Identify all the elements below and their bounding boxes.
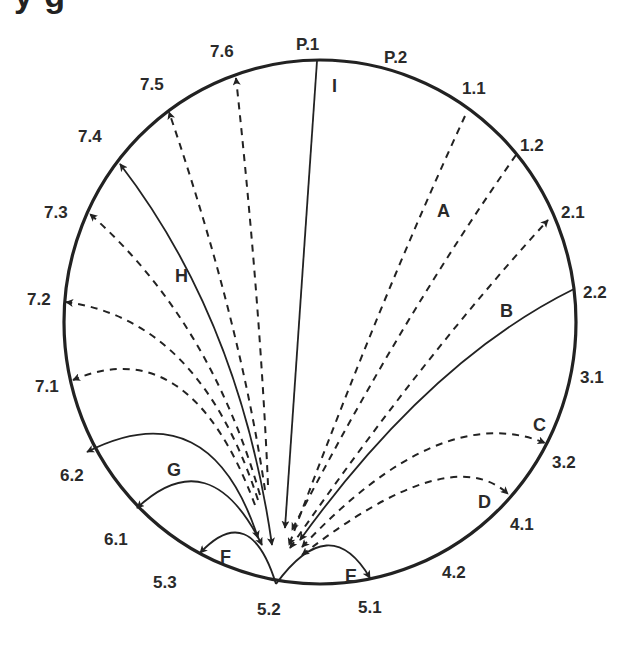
edge-A-1-2 (292, 155, 516, 530)
node-label-7-1: 7.1 (35, 377, 59, 396)
node-label-1-2: 1.2 (520, 136, 544, 155)
path-label-D: D (478, 492, 491, 512)
node-label-2-2: 2.2 (583, 283, 607, 302)
edge-H-7-2 (66, 302, 258, 500)
node-label-2-1: 2.1 (561, 203, 585, 222)
path-label-F: F (220, 547, 231, 567)
edge-H-7-5 (169, 112, 265, 490)
node-label-7-6: 7.6 (210, 42, 234, 61)
node-label-p2: P.2 (384, 48, 407, 67)
node-label-7-4: 7.4 (78, 127, 102, 146)
path-label-A: A (437, 201, 450, 221)
node-label-6-2: 6.2 (60, 466, 84, 485)
node-label-4-2: 4.2 (442, 563, 466, 582)
path-label-H: H (175, 266, 188, 286)
path-label-B: B (500, 301, 513, 321)
path-label-I: I (332, 76, 337, 96)
edge-A-1-1 (289, 116, 465, 545)
node-label-7-2: 7.2 (27, 290, 51, 309)
edge-H-7-6 (236, 78, 268, 485)
edge-G-6-1 (137, 481, 262, 545)
edge-G-6-2 (87, 434, 258, 538)
node-label-5-1: 5.1 (358, 598, 382, 617)
node-label-3-2: 3.2 (552, 453, 576, 472)
edge-I-p1 (285, 61, 317, 528)
flow-diagram: P.1 P.2 1.1 1.2 2.1 2.2 3.1 3.2 4.1 4.2 … (0, 0, 632, 645)
node-label-1-1: 1.1 (462, 79, 486, 98)
path-label-C: C (533, 415, 546, 435)
node-label-5-3: 5.3 (153, 573, 177, 592)
node-label-p1: P.1 (296, 35, 319, 54)
node-label-4-1: 4.1 (510, 515, 534, 534)
node-label-7-3: 7.3 (44, 203, 68, 222)
edge-H-7-1 (73, 369, 255, 505)
node-label-5-2: 5.2 (257, 600, 281, 619)
node-label-3-1: 3.1 (580, 368, 604, 387)
path-label-G: G (167, 460, 181, 480)
path-label-E: E (345, 566, 357, 586)
node-label-6-1: 6.1 (104, 530, 128, 549)
node-label-7-5: 7.5 (140, 75, 164, 94)
